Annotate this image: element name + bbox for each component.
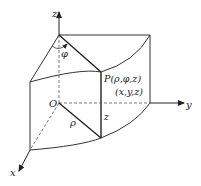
top-edge-x	[30, 35, 59, 82]
phi-label: φ	[61, 48, 68, 59]
height-label: z	[103, 112, 109, 122]
origin-label: O	[49, 98, 57, 109]
x-axis	[19, 150, 30, 171]
y-axis-label: y	[185, 99, 192, 110]
cylindrical-coordinates-diagram: z y x O φ ρ z P(ρ,φ,z) (x,y,z)	[0, 0, 201, 186]
rho-label: ρ	[69, 117, 76, 128]
z-axis-label: z	[51, 8, 58, 19]
rho-line	[59, 103, 101, 138]
x-axis-hidden	[30, 103, 59, 150]
bottom-arc	[30, 103, 150, 150]
point-cartesian-label: (x,y,z)	[115, 86, 143, 97]
x-axis-label: x	[10, 167, 16, 178]
point-cylindrical-label: P(ρ,φ,z)	[103, 73, 141, 84]
